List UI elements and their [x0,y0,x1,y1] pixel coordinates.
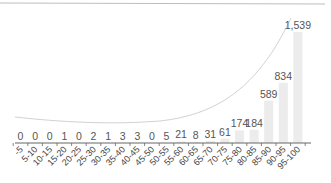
category-labels: -55-1010-1515-2020-2525-3030-3535-4040-4… [12,144,302,171]
value-label: 184 [245,117,263,129]
value-label: 5 [164,130,170,142]
value-label: 21 [175,128,187,140]
value-label: 589 [260,88,278,100]
value-label: 0 [47,130,53,142]
bar-75-80 [235,130,244,143]
value-label: 0 [76,130,82,142]
value-label: 3 [134,130,140,142]
value-label: 8 [193,129,199,141]
bar-80-85 [250,130,259,143]
bar-chart: 0001021330521831611741845898341,539 -55-… [0,0,331,183]
bar-85-90 [264,101,273,143]
value-label: 834 [275,70,293,82]
value-label: 3 [120,130,126,142]
bar-90-95 [279,83,288,143]
bar-70-75 [220,139,229,143]
value-label: 0 [32,130,38,142]
trend-line [15,18,291,123]
bar-95-100 [293,32,302,143]
value-label: 1 [61,130,67,142]
value-label: 1,539 [285,19,311,31]
value-label: 0 [18,130,24,142]
value-label: 61 [219,126,231,138]
value-label: 2 [91,130,97,142]
value-label: 0 [149,130,155,142]
top-rule [0,3,325,4]
value-label: 31 [204,128,216,140]
value-label: 1 [105,130,111,142]
x-axis-ticks [13,143,305,146]
